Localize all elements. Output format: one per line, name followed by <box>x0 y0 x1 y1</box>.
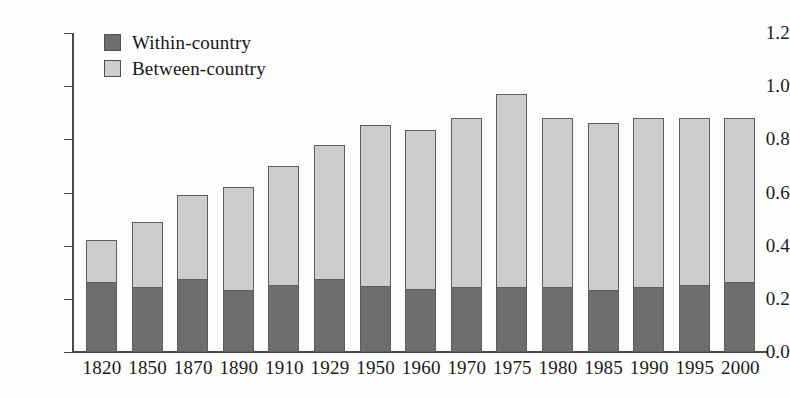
bar-2000 <box>724 118 755 352</box>
bar-segment-between-country-1970 <box>451 118 482 288</box>
bar-segment-within-country-1960 <box>405 289 436 352</box>
x-axis-label-2000: 2000 <box>710 358 770 377</box>
bar-1850 <box>132 222 163 352</box>
bar-segment-within-country-1995 <box>679 285 710 352</box>
legend-item-within-country: Within-country <box>104 29 266 55</box>
legend-item-between-country: Between-country <box>104 55 266 81</box>
legend-swatch-within-country-icon <box>104 34 121 51</box>
bar-segment-within-country-1990 <box>633 287 664 352</box>
bar-segment-within-country-1850 <box>132 287 163 352</box>
y-axis-tick <box>64 86 73 87</box>
bar-1890 <box>223 187 254 352</box>
bar-1985 <box>588 123 619 352</box>
bar-segment-between-country-1975 <box>496 94 527 288</box>
y-axis-tick <box>64 33 73 34</box>
stacked-bar-chart: 0.00.20.40.60.81.01.2 Within-country Bet… <box>0 0 790 398</box>
y-axis-tick <box>64 139 73 140</box>
bar-segment-within-country-1970 <box>451 287 482 352</box>
chart-legend: Within-country Between-country <box>104 29 266 81</box>
bar-segment-between-country-1850 <box>132 222 163 288</box>
bar-segment-within-country-1975 <box>496 287 527 352</box>
y-axis-tick-label: 1.0 <box>734 76 790 95</box>
bar-segment-within-country-1950 <box>360 286 391 352</box>
bar-segment-between-country-1910 <box>268 166 299 286</box>
bar-segment-between-country-1870 <box>177 195 208 280</box>
bar-1990 <box>633 118 664 352</box>
bar-segment-between-country-1990 <box>633 118 664 288</box>
legend-label-within-country: Within-country <box>132 33 251 52</box>
bar-1910 <box>268 166 299 352</box>
bar-1970 <box>451 118 482 352</box>
bar-1995 <box>679 118 710 352</box>
bar-segment-between-country-1890 <box>223 187 254 291</box>
bar-1980 <box>542 118 573 352</box>
bar-1870 <box>177 195 208 352</box>
y-axis-tick <box>64 352 73 353</box>
bar-segment-within-country-1820 <box>86 282 117 352</box>
bar-segment-between-country-2000 <box>724 118 755 283</box>
y-axis-tick-label: 1.2 <box>734 23 790 42</box>
y-axis-tick <box>64 193 73 194</box>
bar-segment-between-country-1980 <box>542 118 573 288</box>
legend-swatch-between-country-icon <box>104 60 121 77</box>
bar-1975 <box>496 94 527 352</box>
bar-segment-between-country-1929 <box>314 145 345 281</box>
bar-1950 <box>360 125 391 352</box>
bar-segment-within-country-1980 <box>542 287 573 352</box>
bar-segment-within-country-1985 <box>588 290 619 352</box>
bar-segment-within-country-1929 <box>314 279 345 352</box>
bar-1929 <box>314 145 345 352</box>
bar-segment-between-country-1985 <box>588 123 619 290</box>
bar-segment-between-country-1960 <box>405 130 436 290</box>
bar-segment-within-country-2000 <box>724 282 755 352</box>
y-axis-tick <box>64 299 73 300</box>
bar-1820 <box>86 240 117 352</box>
bar-segment-within-country-1870 <box>177 279 208 352</box>
bar-segment-within-country-1890 <box>223 290 254 352</box>
bar-1960 <box>405 130 436 352</box>
y-axis-tick <box>64 246 73 247</box>
bar-segment-between-country-1950 <box>360 125 391 287</box>
bar-segment-within-country-1910 <box>268 285 299 352</box>
bar-segment-between-country-1995 <box>679 118 710 285</box>
legend-label-between-country: Between-country <box>132 59 266 78</box>
bar-segment-between-country-1820 <box>86 240 117 283</box>
